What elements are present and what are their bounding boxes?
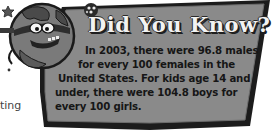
callout-title: Did You Know? (88, 12, 270, 37)
fact-line-5: every 100 girls. (55, 100, 142, 114)
globe-character-icon (0, 0, 80, 80)
fact-line-3: United States. For kids age 14 and (58, 72, 250, 86)
fact-line-1: In 2003, there were 96.8 males (85, 44, 258, 58)
fact-line-4: under, there were 104.8 boys for (55, 86, 237, 100)
fact-line-2: for every 100 females in the (78, 58, 235, 72)
did-you-know-sidebar: ting (0, 0, 274, 133)
